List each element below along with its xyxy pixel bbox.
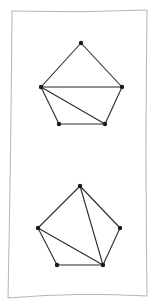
sketch-canvas bbox=[0, 0, 158, 306]
diagram-svg bbox=[0, 0, 158, 306]
vertex-top bbox=[79, 41, 83, 45]
vertex-left bbox=[36, 226, 40, 230]
vertex-top bbox=[78, 184, 82, 188]
vertex-right bbox=[120, 85, 124, 89]
vertex-bottom-left bbox=[55, 263, 59, 267]
vertex-right bbox=[118, 226, 122, 230]
vertex-bottom-right bbox=[101, 263, 105, 267]
vertex-bottom-left bbox=[57, 122, 61, 126]
paper-sheet bbox=[8, 10, 147, 298]
vertex-bottom-right bbox=[103, 122, 107, 126]
vertex-left bbox=[39, 85, 43, 89]
